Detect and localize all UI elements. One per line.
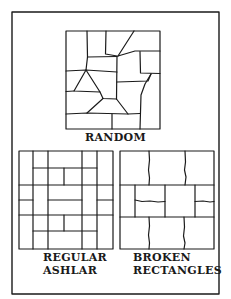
stone-pattern-figure: RANDOM REGULAR ASHLAR BROKEN RECTANGLES bbox=[0, 0, 231, 299]
broken-rectangles-label-line-1: BROKEN bbox=[133, 251, 222, 264]
regular-ashlar-pattern bbox=[19, 151, 113, 249]
broken-rectangles-label: BROKEN RECTANGLES bbox=[133, 251, 222, 277]
regular-ashlar-label: REGULAR ASHLAR bbox=[43, 251, 107, 277]
regular-ashlar-label-line-1: REGULAR bbox=[43, 251, 107, 264]
random-label: RANDOM bbox=[0, 131, 231, 144]
broken-rectangles-pattern bbox=[120, 151, 214, 249]
random-pattern bbox=[66, 31, 160, 129]
broken-rectangles-label-line-2: RECTANGLES bbox=[133, 264, 222, 277]
regular-ashlar-label-line-2: ASHLAR bbox=[43, 264, 107, 277]
